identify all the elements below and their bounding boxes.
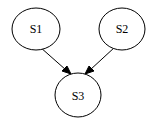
edge-s2-s3 bbox=[85, 47, 115, 74]
edge-line-s2-s3 bbox=[90, 47, 115, 70]
node-s3-label: S3 bbox=[72, 89, 85, 103]
node-s3[interactable]: S3 bbox=[55, 73, 101, 117]
node-s1-label: S1 bbox=[30, 22, 43, 36]
node-s2[interactable]: S2 bbox=[99, 8, 145, 50]
edge-line-s1-s3 bbox=[40, 47, 66, 70]
edge-s1-s3 bbox=[40, 47, 71, 74]
diagram-canvas: S1 S2 S3 bbox=[0, 0, 149, 124]
node-s2-label: S2 bbox=[116, 22, 129, 36]
graph-svg: S1 S2 S3 bbox=[0, 0, 149, 124]
node-s1[interactable]: S1 bbox=[12, 8, 60, 50]
